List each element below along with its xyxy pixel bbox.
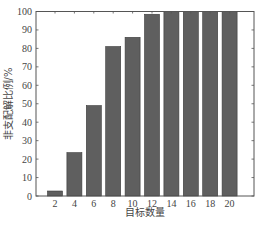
bar: [48, 191, 63, 196]
bar-chart: 0102030405060708090100 2468101214161820 …: [0, 0, 261, 227]
y-axis-title: 非支配解比例/%: [2, 68, 14, 141]
bar: [125, 37, 140, 196]
y-tick-label: 70: [22, 61, 32, 72]
y-tick-label: 40: [22, 117, 32, 128]
x-tick-label: 2: [53, 198, 58, 209]
y-tick-label: 20: [22, 154, 32, 165]
y-tick-label: 60: [22, 80, 32, 91]
bar: [106, 47, 121, 196]
bar: [67, 153, 82, 196]
x-tick-label: 20: [225, 198, 235, 209]
x-tick-label: 14: [166, 198, 176, 209]
bar: [86, 106, 101, 196]
bar: [164, 12, 179, 197]
bar: [222, 12, 237, 197]
y-tick-label: 0: [27, 191, 32, 202]
bar: [145, 14, 160, 196]
x-tick-label: 18: [205, 198, 215, 209]
y-tick-label: 30: [22, 135, 32, 146]
bar: [183, 12, 198, 197]
x-tick-label: 6: [91, 198, 96, 209]
y-tick-label: 100: [17, 6, 32, 17]
x-tick-label: 8: [111, 198, 116, 209]
bars: [48, 12, 238, 197]
y-tick-label: 90: [22, 24, 32, 35]
y-tick-label: 50: [22, 98, 32, 109]
x-axis-title: 目标数量: [125, 206, 165, 218]
y-tick-label: 10: [22, 172, 32, 183]
y-tick-label: 80: [22, 43, 32, 54]
x-tick-label: 4: [72, 198, 77, 209]
x-tick-label: 16: [186, 198, 196, 209]
bar: [203, 12, 218, 197]
